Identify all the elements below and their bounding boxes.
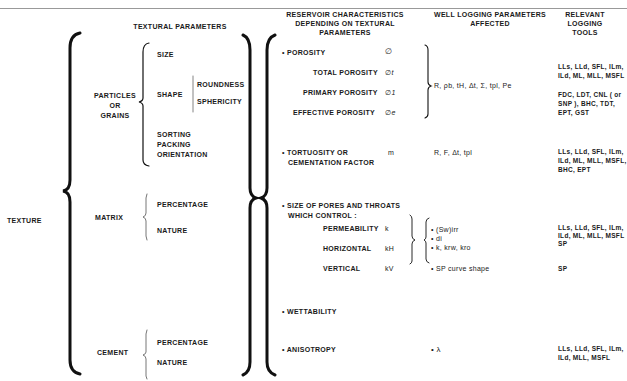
texture-brace-icon xyxy=(63,33,80,374)
k-param: • k, krw, kro xyxy=(431,243,471,252)
tools-tortuosity: LLs, LLd, SFL, ILm, ILd, ML, MLL, MSFL, … xyxy=(558,147,627,174)
roundness-label: ROUNDNESS xyxy=(197,80,244,90)
sp-shape-param: • SP curve shape xyxy=(431,264,490,274)
pores-logging-brace-icon xyxy=(424,218,429,263)
permeability-label: PERMEABILITY xyxy=(323,224,379,234)
header-well-logging-line1: WELL LOGGING PARAMETERS xyxy=(425,10,555,19)
tools-line: LLs, LLd, SFL, ILm, xyxy=(558,62,624,71)
sphericity-label: SPHERICITY xyxy=(197,97,242,107)
effective-porosity-label: EFFECTIVE POROSITY xyxy=(293,108,375,118)
di-param: • di xyxy=(431,234,471,243)
texture-label: TEXTURE xyxy=(7,216,42,226)
matrix-percentage: PERCENTAGE xyxy=(157,200,208,210)
header-tools-line1: RELEVANT xyxy=(555,10,615,19)
header-well-logging: WELL LOGGING PARAMETERS AFFECTED xyxy=(425,10,555,28)
pores-line1: • SIZE OF PORES AND THROATS xyxy=(282,201,400,211)
vertical-label: VERTICAL xyxy=(323,264,360,274)
porosity-logging-params: R, ρb, tH, Δt, Σ, tpl, Pe xyxy=(434,81,512,91)
permeability-brace-icon xyxy=(410,215,415,264)
cement-nature: NATURE xyxy=(157,358,187,368)
header-textural: TEXTURAL PARAMETERS xyxy=(110,22,250,32)
particles-line3: GRAINS xyxy=(90,111,140,121)
sorting-line: SORTING xyxy=(157,130,207,140)
header-reservoir-line3: PARAMETERS xyxy=(270,28,420,37)
tools-line: LLs, LLd, SFL, ILm, xyxy=(558,147,627,156)
porosity-brace-icon xyxy=(425,45,431,118)
pores-logging-params: • (Sw)irr • di • k, krw, kro xyxy=(431,225,471,252)
tools-line: ILd, ML, MLL, MSFL xyxy=(558,71,624,80)
reservoir-opening-brace-icon xyxy=(261,35,275,375)
header-reservoir-line1: RESERVOIR CHARACTERISTICS xyxy=(270,10,420,19)
packing-line: PACKING xyxy=(157,140,207,150)
tools-line: SNP ), BHC, TDT, xyxy=(558,99,621,108)
cement-label: CEMENT xyxy=(97,348,128,358)
total-porosity-label: TOTAL POROSITY xyxy=(313,68,378,78)
porosity-symbol: ∅ xyxy=(385,47,392,57)
header-tools-line3: TOOLS xyxy=(555,28,615,37)
tools-line: SP xyxy=(558,240,624,248)
tools-sp-shape: SP xyxy=(558,264,567,274)
horizontal-label: HORIZONTAL xyxy=(323,244,371,254)
anisotropy-param: • λ xyxy=(431,345,441,355)
tools-line: ILd, ML, MLL, MSFL, xyxy=(558,156,627,165)
primary-porosity-label: PRIMARY POROSITY xyxy=(303,88,378,98)
tools-line: ILd, ML, MLL, MSFL xyxy=(558,232,624,240)
header-reservoir-line2: DEPENDING ON TEXTURAL xyxy=(270,19,420,28)
pores-label: • SIZE OF PORES AND THROATS WHICH CONTRO… xyxy=(282,201,400,221)
horizontal-symbol: kH xyxy=(385,244,394,254)
header-well-logging-line2: AFFECTED xyxy=(425,19,555,28)
orientation-line: ORIENTATION xyxy=(157,150,207,160)
tools-line: LLs, LLd, SFL, ILm, xyxy=(558,224,624,232)
tools-pores: LLs, LLd, SFL, ILm, ILd, ML, MLL, MSFL S… xyxy=(558,224,624,248)
tools-line: BHC, EPT xyxy=(558,165,627,174)
particles-line1: PARTICLES xyxy=(90,91,140,101)
permeability-symbol: k xyxy=(385,224,389,234)
total-porosity-symbol: ∅t xyxy=(385,68,394,78)
tools-anisotropy: LLs, LLd, SFL, ILm, ILd, MLL, MSFL xyxy=(558,344,624,362)
matrix-nature: NATURE xyxy=(157,226,187,236)
anisotropy-label: • ANISOTROPY xyxy=(282,345,336,355)
vertical-symbol: kV xyxy=(385,264,394,274)
tools-porosity-nuclear: FDC, LDT, CNL ( or SNP ), BHC, TDT, EPT,… xyxy=(558,90,621,117)
particles-label: PARTICLES OR GRAINS xyxy=(90,91,140,121)
header-reservoir: RESERVOIR CHARACTERISTICS DEPENDING ON T… xyxy=(270,10,420,37)
pores-line2: WHICH CONTROL : xyxy=(282,211,400,221)
swirr-param: • (Sw)irr xyxy=(431,225,471,234)
header-tools-line2: LOGGING xyxy=(555,19,615,28)
tools-line: LLs, LLd, SFL, ILm, xyxy=(558,344,624,353)
primary-porosity-symbol: ∅1 xyxy=(385,88,396,98)
header-tools: RELEVANT LOGGING TOOLS xyxy=(555,10,615,37)
tortuosity-logging-params: R, F, Δt, tpl xyxy=(434,148,472,158)
tortuosity-line2: CEMENTATION FACTOR xyxy=(282,158,374,168)
sorting-label: SORTING PACKING ORIENTATION xyxy=(157,130,207,160)
shape-label: SHAPE xyxy=(157,90,183,100)
effective-porosity-symbol: ∅e xyxy=(385,108,396,118)
tools-line: FDC, LDT, CNL ( or xyxy=(558,90,621,99)
matrix-label: MATRIX xyxy=(95,213,123,223)
tortuosity-symbol: m xyxy=(388,148,394,158)
particles-brace-icon xyxy=(139,43,149,166)
matrix-brace-icon xyxy=(143,194,147,240)
cement-percentage: PERCENTAGE xyxy=(157,338,208,348)
porosity-label: • POROSITY xyxy=(282,48,326,58)
tools-line: EPT, GST xyxy=(558,108,621,117)
tortuosity-label: • TORTUOSITY OR CEMENTATION FACTOR xyxy=(282,148,374,168)
tools-line: ILd, MLL, MSFL xyxy=(558,353,624,362)
particles-line2: OR xyxy=(90,101,140,111)
tortuosity-line1: • TORTUOSITY OR xyxy=(282,148,374,158)
tools-porosity-resistivity: LLs, LLd, SFL, ILm, ILd, ML, MLL, MSFL xyxy=(558,62,624,80)
size-label: SIZE xyxy=(157,50,174,60)
wettability-label: • WETTABILITY xyxy=(282,307,337,317)
cement-brace-icon xyxy=(143,330,147,379)
textural-closing-brace-icon xyxy=(243,35,256,375)
